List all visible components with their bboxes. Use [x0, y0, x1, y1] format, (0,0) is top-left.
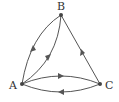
node-a [20, 82, 24, 86]
node-label-a: A [9, 80, 17, 91]
node-b [59, 13, 63, 17]
node-label-c: C [105, 80, 113, 91]
arrow-b-to-a-icon [45, 54, 51, 61]
node-label-b: B [57, 1, 65, 12]
arrow-c-to-a-icon [58, 89, 64, 95]
node-c [98, 82, 102, 86]
directed-graph-diagram: B A C [0, 0, 119, 102]
edge-a-to-b [22, 15, 61, 84]
arrow-a-to-c-icon [58, 73, 64, 79]
edge-b-to-a [22, 15, 61, 84]
edge-c-to-b [61, 15, 100, 84]
arrow-a-to-b-icon [30, 45, 36, 52]
graph-canvas [0, 0, 119, 102]
